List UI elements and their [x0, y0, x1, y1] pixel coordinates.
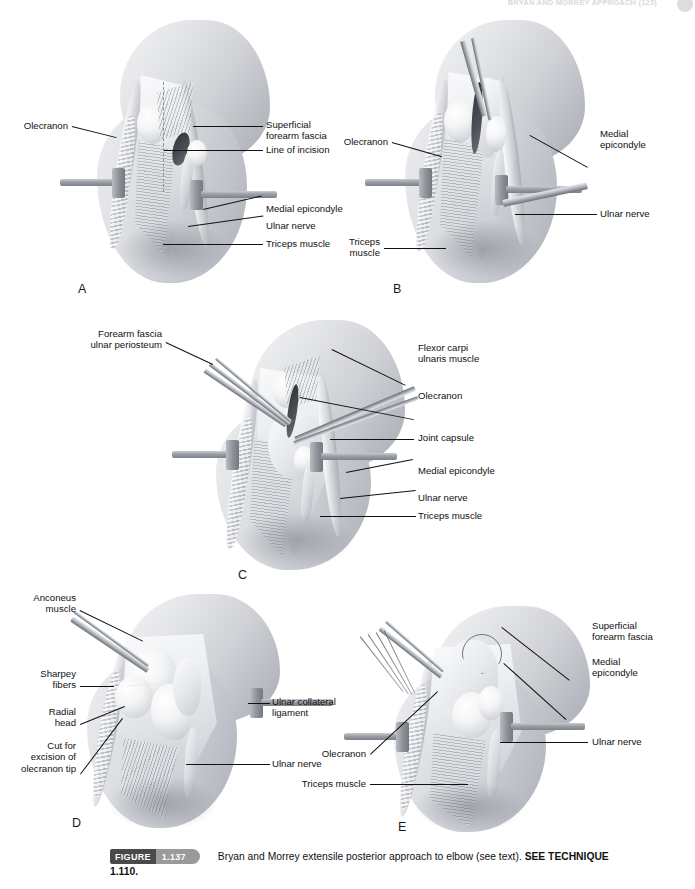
label-e-ulnar-nerve: Ulnar nerve [592, 736, 678, 747]
medial-epicondyle-b [486, 116, 506, 152]
medial-epicondyle-a [187, 140, 207, 166]
label-c-forearm-fascia: Forearm fascia ulnar periosteum [10, 328, 162, 351]
retractor-left-c [172, 440, 252, 470]
label-a-ulnar-nerve: Ulnar nerve [266, 220, 356, 231]
shading-b [428, 220, 540, 278]
label-e-medial-epicondyle: Medial epicondyle [592, 656, 678, 679]
leader-d-ulnar-nerve [186, 764, 270, 765]
label-b-triceps-muscle: Triceps muscle [320, 236, 380, 259]
leader-b-triceps [384, 248, 446, 249]
label-a-olecranon: Olecranon [0, 120, 68, 131]
retractor-left-a [60, 168, 138, 198]
caption-text: Bryan and Morrey extensile posterior app… [218, 850, 609, 863]
incision-dashed-line-a [163, 82, 164, 192]
panel-letter-c: C [238, 568, 247, 582]
label-c-flexor-carpi-ulnaris: Flexor carpi ulnaris muscle [418, 342, 514, 365]
retractor-right-c [310, 442, 406, 472]
leader-a-fascia [193, 126, 263, 127]
leader-c-fascia [166, 342, 214, 365]
figure-word-badge: FIGURE [110, 849, 156, 864]
running-head-dot [677, 0, 693, 12]
label-d-sharpey-fibers: Sharpey fibers [10, 668, 76, 691]
leader-e-triceps [370, 784, 468, 785]
leader-c-capsule [330, 439, 414, 440]
leader-d-sharpey [80, 686, 114, 687]
panel-e: E Olecranon Triceps muscle Superficial f… [320, 600, 695, 840]
label-b-ulnar-nerve: Ulnar nerve [600, 208, 680, 219]
figure-number-badge: 1.137 [156, 849, 200, 864]
figure-caption: FIGURE 1.137 Bryan and Morrey extensile … [110, 849, 685, 877]
panel-letter-a: A [78, 282, 86, 296]
label-e-olecranon: Olecranon [298, 748, 366, 759]
leader-b-ulnar-nerve [515, 214, 597, 215]
panel-a: A Olecranon Superficial forearm fascia L… [0, 20, 350, 300]
leader-e-ulnar-nerve [500, 742, 588, 743]
caption-see-technique: SEE TECHNIQUE [525, 851, 609, 862]
leader-d-ucl [248, 703, 270, 704]
label-d-cut-for-excision: Cut for excision of olecranon tip [2, 740, 76, 774]
label-c-ulnar-nerve: Ulnar nerve [418, 492, 504, 503]
panel-c: C Forearm fascia ulnar periosteum Flexor… [150, 320, 550, 585]
label-e-superficial-forearm-fascia: Superficial forearm fascia [592, 620, 688, 643]
panel-a-illustration [95, 20, 270, 285]
leader-a-incision [164, 150, 263, 151]
panel-letter-d: D [72, 816, 81, 830]
caption-technique-number: 1.110. [110, 866, 685, 877]
leader-c-triceps [320, 516, 416, 517]
shading-e [414, 782, 526, 832]
label-d-anconeus-muscle: Anconeus muscle [10, 592, 76, 615]
radial-head-d [115, 676, 153, 718]
label-b-medial-epicondyle: Medial epicondyle [600, 128, 686, 151]
caption-main-text: Bryan and Morrey extensile posterior app… [218, 851, 525, 862]
running-head: BRYAN AND MORREY APPROACH (123) [508, 0, 657, 7]
label-c-medial-epicondyle: Medial epicondyle [418, 465, 518, 476]
label-c-olecranon: Olecranon [418, 390, 504, 401]
panel-d: D Anconeus muscle Sharpey fibers Radial … [0, 588, 350, 838]
ulnar-collateral-ligament-d [173, 658, 201, 716]
figure-page: BRYAN AND MORREY APPROACH (123) [0, 0, 695, 889]
panel-letter-b: B [393, 282, 401, 296]
shading-d [107, 776, 219, 828]
shading-c [238, 512, 354, 568]
label-c-joint-capsule: Joint capsule [418, 432, 504, 443]
retractor-left-b [365, 168, 445, 198]
retractor-right-e [500, 712, 596, 742]
label-b-olecranon: Olecranon [320, 136, 388, 147]
panel-letter-e: E [398, 820, 406, 834]
label-c-triceps-muscle: Triceps muscle [418, 510, 510, 521]
label-d-radial-head: Radial head [10, 706, 76, 729]
leader-a-triceps [163, 244, 263, 245]
panel-b: B Olecranon Triceps muscle Medial epicon… [345, 20, 695, 300]
shading-a [119, 220, 229, 278]
label-e-triceps-muscle: Triceps muscle [272, 778, 366, 789]
